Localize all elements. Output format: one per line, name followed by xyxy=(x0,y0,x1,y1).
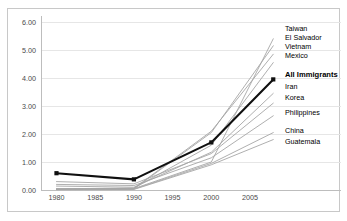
series-line-iran xyxy=(56,93,273,187)
series-marker-all-immigrants xyxy=(271,77,275,81)
series-line-korea xyxy=(56,103,273,184)
series-line-mexico xyxy=(56,63,273,189)
series-marker-all-immigrants xyxy=(132,177,136,181)
x-tick-label: 1990 xyxy=(126,193,142,202)
x-tick-label: 2005 xyxy=(242,193,258,202)
legend-item-all-immigrants[interactable]: All Immigrants xyxy=(285,67,338,79)
legend-label: Philippines xyxy=(285,108,320,117)
series-marker-all-immigrants xyxy=(209,140,213,144)
legend-item-philippines[interactable]: Philippines xyxy=(285,105,320,117)
series-marker-all-immigrants xyxy=(54,171,58,175)
y-tick-label: 6.00 xyxy=(22,18,36,27)
x-tick-labels-group: 198019851990199520002005 xyxy=(48,193,258,202)
chart-screenshot: 0.001.002.003.004.005.006.00 19801985199… xyxy=(0,0,347,221)
y-tick-label: 5.00 xyxy=(22,46,36,55)
legend-label: Mexico xyxy=(285,51,308,60)
y-tick-label: 4.00 xyxy=(22,74,36,83)
series-line-china xyxy=(56,133,273,190)
x-tick-label: 1980 xyxy=(48,193,64,202)
y-tick-label: 2.00 xyxy=(22,130,36,139)
series-lines-group xyxy=(56,39,273,190)
series-line-el-salvador xyxy=(56,46,273,190)
legend-label: Korea xyxy=(285,93,304,102)
x-tick-label: 1995 xyxy=(165,193,181,202)
legend-label: All Immigrants xyxy=(285,70,338,79)
y-tick-label: 3.00 xyxy=(22,102,36,111)
y-tick-labels-group: 0.001.002.003.004.005.006.00 xyxy=(22,18,36,195)
legend-label: Guatemala xyxy=(285,137,320,146)
y-tick-label: 1.00 xyxy=(22,158,36,167)
x-tick-label: 1985 xyxy=(87,193,103,202)
series-line-vietnam xyxy=(56,54,273,189)
legend-item-guatemala[interactable]: Guatemala xyxy=(285,134,320,146)
x-tick-label: 2000 xyxy=(203,193,219,202)
y-tick-label: 0.00 xyxy=(22,186,36,195)
legend-item-korea[interactable]: Korea xyxy=(285,90,304,102)
legend-item-mexico[interactable]: Mexico xyxy=(285,48,308,60)
